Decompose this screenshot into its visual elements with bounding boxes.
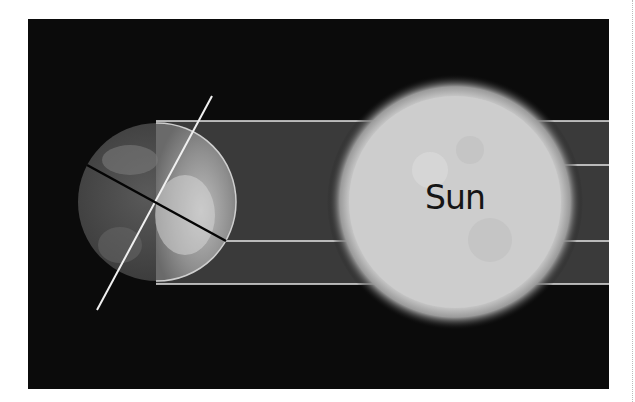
sun-label: Sun xyxy=(395,178,515,217)
earth-sun-diagram xyxy=(0,0,635,402)
